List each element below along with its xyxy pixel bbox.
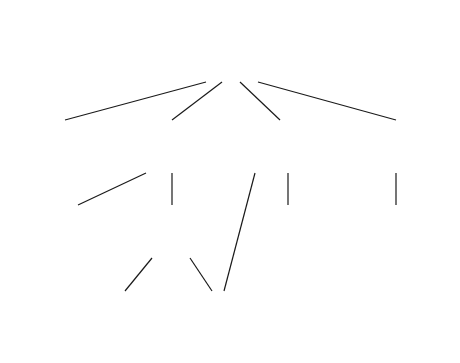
edge-create-new-null-sale bbox=[78, 173, 146, 205]
edge-root-initialize bbox=[65, 82, 206, 120]
structure-chart-canvas bbox=[0, 0, 460, 363]
edge-update-existing-edit-customer bbox=[224, 173, 255, 291]
edge-root-create-new bbox=[172, 82, 222, 120]
edge-basic-edit-customer bbox=[190, 258, 212, 291]
edge-basic-status-codes bbox=[125, 258, 152, 291]
edge-root-close-file bbox=[258, 82, 396, 120]
edge-root-update-existing bbox=[240, 82, 280, 120]
connector-lines bbox=[0, 0, 460, 363]
